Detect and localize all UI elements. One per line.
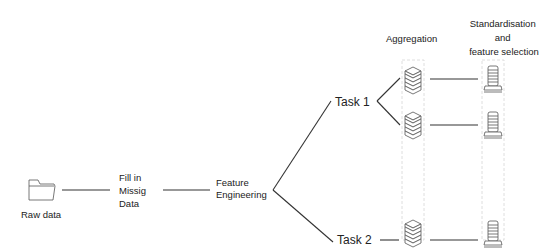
- cylinder-stack-icon: [484, 66, 502, 92]
- edge-task1-to-agg1: [377, 78, 400, 101]
- stacked-layers-icon: [405, 112, 421, 139]
- edge-feature-to-task1: [273, 101, 331, 190]
- task1-label: Task 1: [335, 95, 370, 109]
- edge-feature-to-task2: [273, 190, 333, 242]
- folder-icon: [29, 180, 55, 200]
- fill-missing-label: Fill in Missig Data: [119, 172, 149, 209]
- cylinder-stack-icon: [484, 221, 502, 247]
- raw-data-label: Raw data: [21, 209, 62, 220]
- standardisation-header: Standardisation and feature selection: [469, 18, 539, 57]
- pipeline-diagram: Raw data Fill in Missig Data Feature Eng…: [0, 0, 550, 252]
- aggregation-header: Aggregation: [386, 33, 437, 44]
- stacked-layers-icon: [405, 67, 421, 94]
- edge-task1-to-agg2: [377, 101, 400, 125]
- cylinder-stack-icon: [484, 112, 502, 138]
- task2-label: Task 2: [337, 233, 372, 247]
- stacked-layers-icon: [405, 220, 421, 247]
- feature-engineering-label: Feature Engineering: [216, 177, 267, 200]
